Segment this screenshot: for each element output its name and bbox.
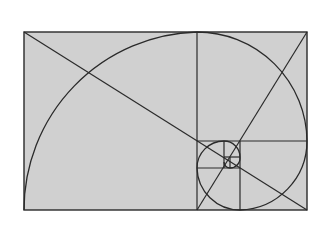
golden-ratio-diagram xyxy=(0,0,320,225)
